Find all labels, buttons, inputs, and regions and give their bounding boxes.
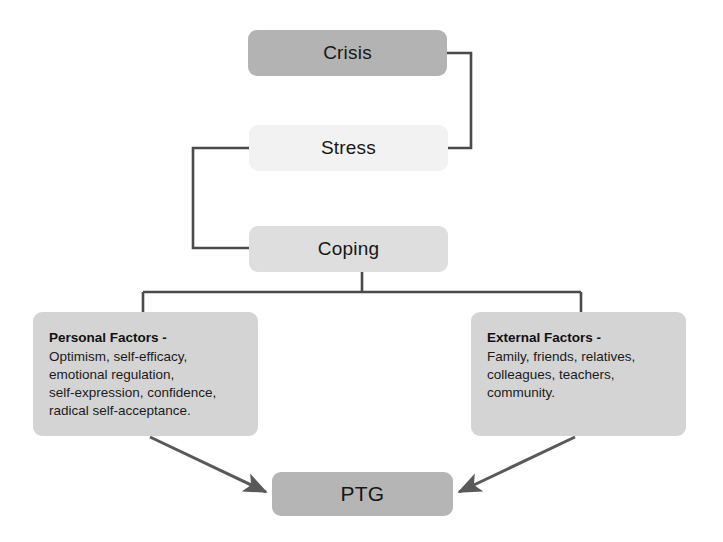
external-factors-line-1: Family, friends, relatives, [487,348,635,366]
node-external-factors[interactable]: External Factors - Family, friends, rela… [471,312,686,436]
node-coping[interactable]: Coping [249,226,448,272]
node-coping-label: Coping [318,238,379,260]
connector-crisis-to-stress [447,53,471,148]
node-crisis-label: Crisis [323,42,372,64]
personal-factors-line-1: Optimism, self-efficacy, [49,348,216,366]
arrow-external-factors-to-ptg [459,437,575,492]
personal-factors-line-4: radical self-acceptance. [49,402,216,420]
external-factors-line-3: community. [487,384,635,402]
personal-factors-heading: Personal Factors - [49,329,216,347]
connector-stress-to-coping [193,148,249,248]
personal-factors-line-3: self-expression, confidence, [49,384,216,402]
node-crisis[interactable]: Crisis [248,30,447,76]
node-ptg-label: PTG [341,482,385,506]
footer-caption [0,526,723,542]
personal-factors-text: Personal Factors - Optimism, self-effica… [49,329,216,420]
arrow-personal-factors-to-ptg [150,437,266,492]
node-ptg[interactable]: PTG [272,472,453,516]
diagram-canvas: Crisis Stress Coping Personal Factors - … [0,0,723,542]
external-factors-line-2: colleagues, teachers, [487,366,635,384]
personal-factors-line-2: emotional regulation, [49,366,216,384]
external-factors-text: External Factors - Family, friends, rela… [487,329,635,402]
external-factors-heading: External Factors - [487,329,635,347]
node-personal-factors[interactable]: Personal Factors - Optimism, self-effica… [33,312,258,436]
node-stress[interactable]: Stress [249,125,448,171]
node-stress-label: Stress [321,137,376,159]
